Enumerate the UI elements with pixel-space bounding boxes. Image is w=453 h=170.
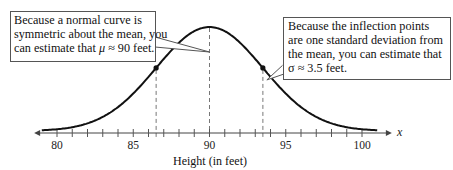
std-callout: Because the inflection points are one st… [283,17,451,80]
callout-line: can estimate that μ ≈ 90 feet. [14,41,152,55]
callout-line: symmetric about the mean, you [14,27,152,41]
svg-text:90: 90 [204,139,216,151]
callout-line: are one standard deviation from [288,33,447,47]
mean-callout: Because a normal curve is symmetric abou… [10,11,156,62]
callout-line: Because a normal curve is [14,13,152,27]
sigma-symbol: σ [288,61,295,75]
svg-text:x: x [396,125,403,139]
x-axis: 80859095100x [34,125,403,151]
callout-line: the mean, you can estimate that [288,47,447,61]
svg-text:85: 85 [128,139,140,151]
svg-text:80: 80 [51,139,63,151]
x-axis-label: Height (in feet) [0,154,420,169]
callout-line: Because the inflection points [288,19,447,33]
callout-line: σ ≈ 3.5 feet. [288,61,447,75]
svg-text:100: 100 [353,139,371,151]
svg-text:95: 95 [280,139,292,151]
callout-pointers [155,37,284,80]
